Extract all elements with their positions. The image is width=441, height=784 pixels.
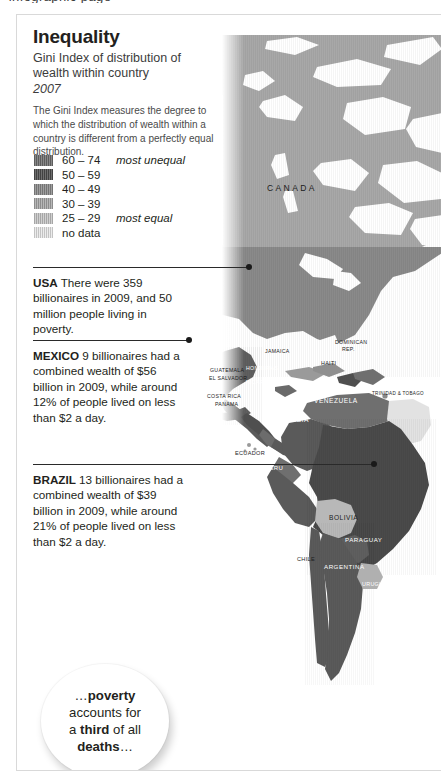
map-label-guatemala: GUATEMALA [210,367,245,373]
map-label-bolivia: BOLIVIA [329,514,358,521]
southern-cone-texture [305,523,375,685]
map-label-argentina: ARGENTINA [324,563,365,570]
bubble-word-deaths: deaths [77,739,120,754]
infographic-page: · infographic page · [0,0,441,784]
map-label-nicaragua: NICARAGUA [246,379,280,385]
map-label-honduras: HONDURAS [246,365,278,371]
pull-quote-text: …poverty accounts for a third of all dea… [51,687,159,756]
map-label-el-salvador: EL SALVADOR [209,375,247,381]
bubble-line2: accounts for [69,705,141,720]
map-label-uruguay: URUGUAY [362,581,391,587]
leader-line-mexico [33,340,189,341]
map-label-canada: CANADA [267,183,317,193]
map-label-ecuador: ECUADOR [235,450,265,456]
leader-dot-usa [246,264,252,270]
americas-map-svg: CANADA JAMAICA DOMINICAN REP. HAITI GUAT… [17,15,441,771]
map-label-haiti: HAITI [321,360,336,366]
map-label-panama: PANAMA [215,401,239,407]
map-label-costa-rica: COSTA RICA [207,393,241,399]
map-label-jamaica: JAMAICA [265,348,290,354]
world-map: CANADA JAMAICA DOMINICAN REP. HAITI GUAT… [17,15,441,771]
map-label-venezuela: VENEZUELA [314,397,358,404]
map-label-peru: PERU [265,465,283,471]
bubble-line3-c: of all [109,722,141,737]
bubble-word-poverty: poverty [88,688,136,703]
leader-line-usa [33,267,249,268]
map-label-dominican: DOMINICAN [335,339,367,345]
cut-off-header-text: · infographic page · [0,0,441,3]
map-label-dominican-rep: REP. [342,346,355,352]
bubble-line4-c: … [120,739,133,754]
infographic-card: CANADA JAMAICA DOMINICAN REP. HAITI GUAT… [16,14,441,771]
leader-line-brazil [33,464,374,465]
bubble-word-third: third [80,722,109,737]
pull-quote-bubble-wrap: …poverty accounts for a third of all dea… [35,660,185,771]
leader-dot-brazil [371,461,377,467]
leader-dot-mexico [186,337,192,343]
bubble-line3-a: a [69,722,80,737]
bubble-ellipsis: … [75,688,88,703]
map-label-colombia: COLOMBIA [270,416,309,423]
legend-backdrop [137,95,223,245]
pull-quote-bubble: …poverty accounts for a third of all dea… [41,664,169,771]
map-label-trinidad-tobago: TRINIDAD & TOBAGO [372,391,424,396]
map-label-paraguay: PARAGUAY [345,536,382,543]
map-label-chile: CHILE [297,556,315,562]
